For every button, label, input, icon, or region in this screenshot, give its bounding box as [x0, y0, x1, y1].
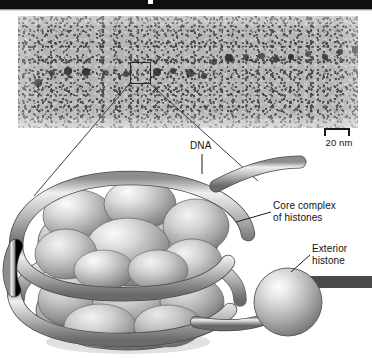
electron-micrograph [18, 16, 358, 128]
label-exterior-line2: histone [312, 255, 345, 266]
chromatin-nucleosome-figure: 20 nm [0, 0, 372, 358]
top-black-bar [0, 0, 372, 9]
label-exterior-histone: Exterior histone [312, 243, 347, 266]
label-dna: DNA [190, 140, 211, 152]
exterior-histone [254, 268, 322, 336]
scale-bar-label: 20 nm [317, 137, 361, 148]
top-bar-nick [148, 0, 153, 4]
micrograph-vignette [18, 16, 358, 128]
label-core-complex-line2: of histones [273, 212, 322, 223]
label-core-complex-line1: Core complex [273, 200, 336, 211]
label-core-complex-of-histones: Core complex of histones [273, 200, 336, 223]
top-bar-shadow [0, 9, 372, 11]
label-exterior-line1: Exterior [312, 243, 347, 254]
scale-bar [324, 128, 350, 136]
magnified-region-selection-box[interactable] [130, 62, 151, 84]
